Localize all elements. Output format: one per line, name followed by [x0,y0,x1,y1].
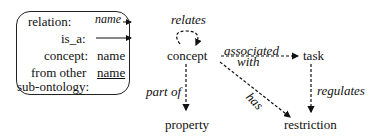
edge-has [220,62,290,117]
diagram-edges [0,0,383,140]
edge-relates-loop [177,31,198,45]
